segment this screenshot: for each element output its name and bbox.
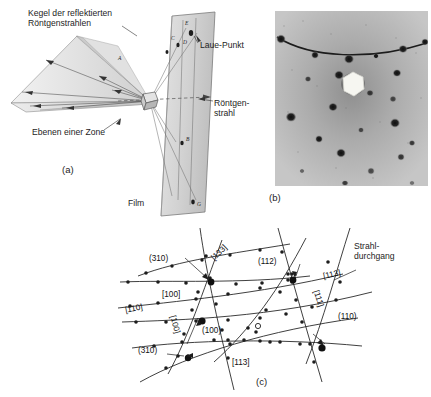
panel-b-photograph: (b) — [243, 0, 431, 215]
index-zone-110: (110) — [338, 312, 357, 321]
index-zone-112: (112) — [258, 257, 277, 266]
index-zone-100-center: (100) — [202, 326, 221, 335]
laue-figure: E C D A B G Kegel der reflektierten Rönt… — [0, 0, 431, 397]
svg-text:G: G — [197, 201, 201, 207]
label-laue-point: Laue-Punkt — [200, 40, 244, 50]
svg-text:D: D — [182, 39, 187, 45]
panel-a-schematic: E C D A B G Kegel der reflektierten Rönt… — [0, 0, 240, 225]
svg-text:E: E — [184, 20, 189, 26]
label-zone-planes: Ebenen einer Zone — [32, 127, 105, 137]
crystal-cube — [141, 92, 158, 110]
laue-photo — [275, 11, 428, 186]
panel-a-drawing: E C D A B G — [0, 0, 240, 225]
zone-axis-nodes — [185, 277, 326, 362]
svg-text:A: A — [117, 55, 122, 61]
index-zone-100-upper: [100] — [162, 290, 180, 299]
label-reflected-cone: Kegel der reflektierten Röntgenstrahlen — [28, 8, 112, 28]
beam-passage-marker — [255, 323, 260, 328]
label-film: Film — [128, 198, 144, 208]
caption-panel-b: (b) — [269, 192, 281, 203]
index-zone-310-top: (310) — [149, 254, 168, 263]
caption-panel-c: (c) — [256, 376, 267, 387]
index-zone-310-low: (310) — [138, 346, 157, 355]
label-beam-passage: Strahl- durchgang — [354, 241, 395, 261]
index-leader-arrowheads — [186, 271, 324, 358]
svg-text:C: C — [171, 35, 175, 41]
zone-spots — [126, 248, 342, 369]
caption-panel-a: (a) — [62, 164, 74, 175]
index-zone-113-bottom: [113] — [232, 358, 250, 367]
laue-photo-image — [275, 11, 428, 186]
panel-c-zone-map: (310) [133] (112) [113] [111] (110) [100… — [110, 222, 431, 397]
